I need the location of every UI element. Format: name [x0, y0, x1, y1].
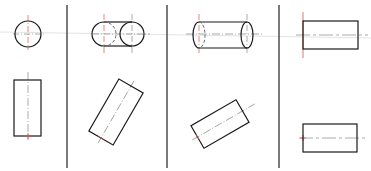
panel-1	[13, 15, 46, 140]
cylinder-ellipse-view	[186, 14, 262, 54]
cylinder-projection-diagram	[0, 0, 371, 171]
rotated-rectangle-view-2	[186, 93, 261, 152]
panel-4	[296, 12, 368, 152]
side-view-rectangle	[14, 72, 41, 140]
horizontal-rectangle-top	[296, 12, 368, 58]
horizontal-rectangle-bottom	[299, 124, 366, 152]
panel-3	[186, 14, 262, 151]
rotated-rectangle-view	[86, 74, 146, 150]
